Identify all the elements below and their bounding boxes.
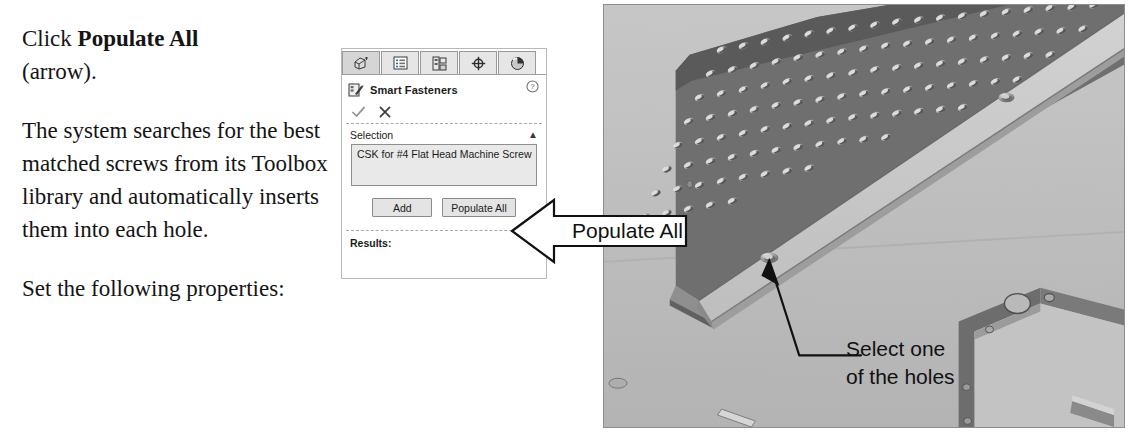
results-group-label: Results: — [350, 237, 391, 249]
instruction-1-bold-command: Populate All — [78, 26, 199, 51]
property-manager-action-row[interactable] — [342, 102, 546, 122]
populate-all-button[interactable]: Populate All — [442, 198, 515, 217]
populate-all-callout-label: Populate All — [572, 214, 684, 248]
x-cancel-icon[interactable] — [379, 106, 391, 118]
instruction-1-prefix: Click — [22, 26, 78, 51]
crosshair-icon — [471, 56, 486, 71]
tab-configuration-manager[interactable] — [420, 51, 458, 74]
instruction-text-column: Click Populate All (arrow). The system s… — [22, 22, 352, 305]
countersunk-hole-far — [998, 93, 1014, 103]
property-manager-tab-strip[interactable] — [342, 49, 546, 75]
instruction-paragraph-2: The system searches for the best matched… — [22, 114, 352, 246]
add-button[interactable]: Add — [372, 198, 432, 217]
appearance-sphere-icon — [510, 56, 525, 71]
smart-fasteners-icon — [348, 82, 364, 98]
property-manager-title-row: Smart Fasteners ? — [342, 75, 546, 102]
select-holes-callout: Select one of the holes — [846, 335, 955, 391]
selection-list-box[interactable]: CSK for #4 Flat Head Machine Screw — [351, 144, 537, 186]
instruction-paragraph-3: Set the following properties: — [22, 272, 352, 305]
populate-all-callout: Populate All — [510, 196, 688, 266]
help-question-icon[interactable]: ? — [526, 80, 539, 93]
select-holes-line-2: of the holes — [846, 363, 955, 391]
svg-text:?: ? — [530, 82, 535, 91]
instruction-paragraph-1: Click Populate All (arrow). — [22, 22, 222, 88]
config-icon — [432, 56, 447, 71]
tab-feature-manager-design-tree[interactable] — [342, 51, 380, 74]
list-icon — [393, 56, 408, 70]
chevron-up-icon[interactable]: ▲ — [528, 130, 538, 140]
tree-icon — [353, 56, 370, 71]
tab-display-manager[interactable] — [498, 51, 536, 74]
selection-group-label: Selection — [350, 129, 393, 141]
selection-list-item[interactable]: CSK for #4 Flat Head Machine Screw — [357, 148, 532, 160]
checkmark-icon[interactable] — [352, 106, 365, 118]
tab-property-manager[interactable] — [381, 51, 419, 74]
selection-group-header[interactable]: Selection ▲ — [342, 124, 546, 144]
property-manager-title: Smart Fasteners — [370, 84, 458, 96]
instruction-1-suffix: (arrow). — [22, 59, 97, 84]
select-holes-line-1: Select one — [846, 335, 955, 363]
tab-dimxpert-manager[interactable] — [459, 51, 497, 74]
